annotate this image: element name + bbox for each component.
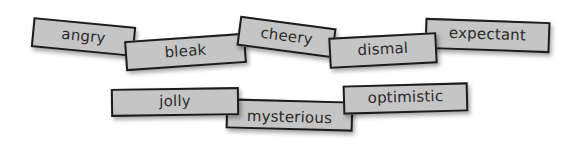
word-card-label: angry xyxy=(61,26,107,47)
word-card-board: angry bleak cheery expectant dismal myst… xyxy=(0,0,584,158)
word-card-jolly[interactable]: jolly xyxy=(111,87,239,117)
word-card-label: optimistic xyxy=(367,89,443,108)
word-card-dismal[interactable]: dismal xyxy=(328,32,437,69)
word-card-label: bleak xyxy=(164,42,207,62)
word-card-label: mysterious xyxy=(247,102,333,127)
word-card-cheery[interactable]: cheery xyxy=(236,16,336,58)
word-card-label: expectant xyxy=(449,26,527,46)
word-card-label: dismal xyxy=(357,41,409,61)
word-card-label: jolly xyxy=(159,93,191,110)
word-card-mysterious[interactable]: mysterious xyxy=(226,98,354,131)
word-card-bleak[interactable]: bleak xyxy=(124,33,247,71)
word-card-angry[interactable]: angry xyxy=(31,17,136,57)
word-card-label: cheery xyxy=(259,25,313,49)
word-card-expectant[interactable]: expectant xyxy=(424,18,550,53)
word-card-optimistic[interactable]: optimistic xyxy=(343,82,469,114)
